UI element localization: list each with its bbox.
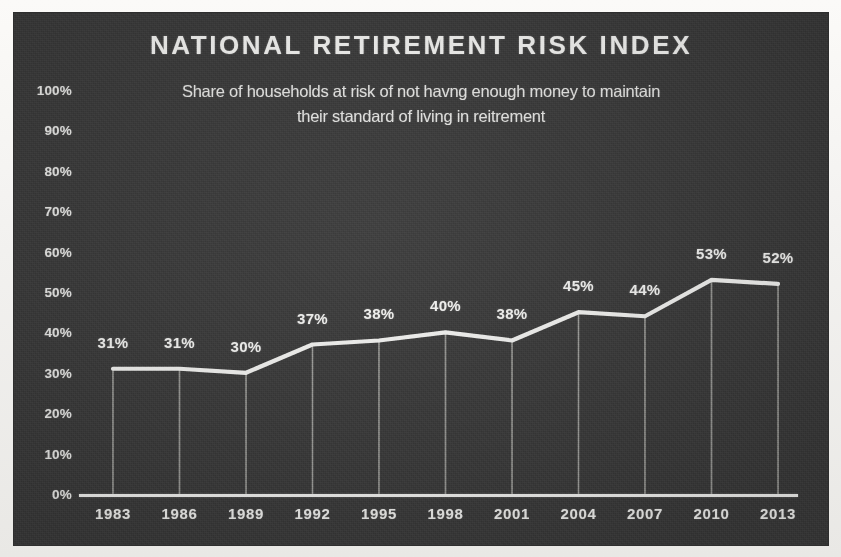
data-label: 52% xyxy=(763,248,794,265)
plot-area: 0%10%20%30%40%50%60%70%80%90%100% 198319… xyxy=(14,13,828,545)
data-label: 30% xyxy=(231,337,262,354)
data-label: 38% xyxy=(364,305,395,322)
data-label: 44% xyxy=(630,281,661,298)
data-label: 53% xyxy=(696,244,727,261)
data-label: 37% xyxy=(297,309,328,326)
data-label: 45% xyxy=(563,277,594,294)
chart-panel: NATIONAL RETIREMENT RISK INDEX Share of … xyxy=(14,13,828,545)
data-label: 31% xyxy=(164,333,195,350)
data-label: 31% xyxy=(98,333,129,350)
data-label: 38% xyxy=(497,305,528,322)
series-line-group xyxy=(14,13,828,545)
scanned-page: NATIONAL RETIREMENT RISK INDEX Share of … xyxy=(0,0,841,557)
series-line xyxy=(113,280,778,373)
data-label: 40% xyxy=(430,297,461,314)
